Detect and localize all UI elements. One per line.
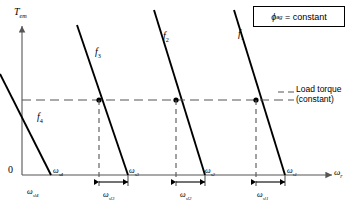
figure-canvas (0, 0, 352, 210)
flux-symbol-subscript: ag (276, 14, 282, 20)
x-axis-label: ωr (334, 168, 343, 179)
slip-speed-label-1: ωsl1 (257, 191, 268, 202)
torque-speed-figure: Tem ωr 0 f4 f3 f2 f1 ωs4 ωs3 ωs2 ωs1 ωsl… (0, 0, 352, 210)
load-torque-line-2: (constant) (296, 94, 334, 104)
curve-label-f1: f1 (238, 29, 244, 41)
slip-speed-label-3: ωsl3 (103, 191, 114, 202)
slip-speed-label-4: ωsl4 (27, 188, 38, 199)
curve-label-f3: f3 (95, 47, 101, 59)
flux-constant-text: = constant (285, 12, 327, 22)
sync-speed-label-3: ωs3 (129, 167, 139, 178)
sync-speed-label-1: ωs1 (287, 167, 297, 178)
curve-label-f2: f2 (163, 31, 169, 43)
flux-legend-box: ϕag = constant (253, 6, 345, 27)
curve-f2 (154, 10, 205, 175)
flux-legend-text: ϕag = constant (254, 7, 344, 26)
slip-speed-label-2: ωsl2 (180, 191, 191, 202)
sync-speed-label-4: ωs4 (53, 167, 63, 178)
curve-label-f4: f4 (37, 112, 43, 124)
load-torque-annotation: Load torque (constant) (296, 85, 341, 105)
sync-speed-label-2: ωs2 (205, 167, 215, 178)
curve-f4 (0, 74, 51, 175)
load-torque-line-1: Load torque (296, 84, 341, 94)
y-axis-label: Tem (14, 7, 27, 19)
origin-label: 0 (8, 165, 13, 175)
